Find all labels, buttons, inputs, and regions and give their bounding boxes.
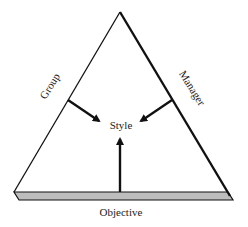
right-side-manager — [120, 12, 230, 196]
style-triangle-diagram: Style Group Manager Objective — [0, 0, 248, 227]
side-label-group: Group — [37, 70, 62, 101]
arrow-group-to-style — [68, 100, 99, 121]
side-label-manager: Manager — [177, 68, 208, 108]
left-side-group — [14, 12, 120, 192]
base-label-objective: Objective — [100, 206, 143, 218]
base-bar — [14, 192, 233, 200]
center-label-style: Style — [110, 119, 133, 131]
arrow-manager-to-style — [141, 100, 172, 121]
